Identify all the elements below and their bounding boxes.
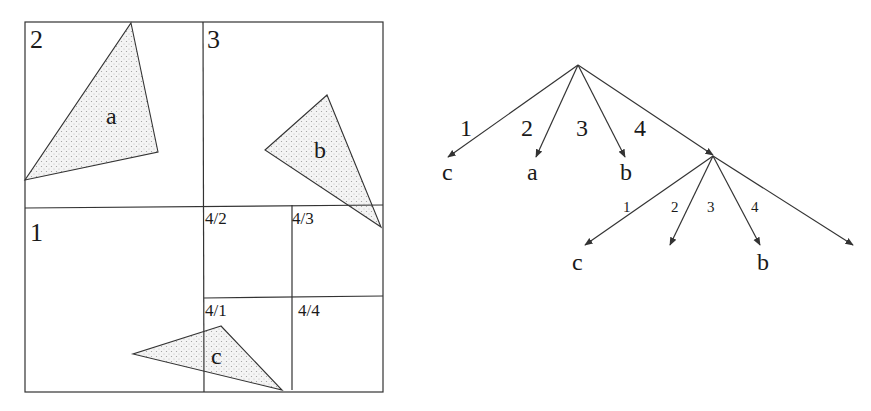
object-label-a: a xyxy=(106,103,117,129)
subquadrant-label-4-1: 4/1 xyxy=(205,301,227,320)
spatial-partition: abc 231 4/24/34/14/4 xyxy=(25,22,383,392)
subquadrant-label-4-3: 4/3 xyxy=(292,209,314,228)
subtree-edge-label-1: 1 xyxy=(623,199,631,215)
tree-edge-4 xyxy=(578,65,713,155)
subtree-edge-label-3: 3 xyxy=(707,199,715,215)
quad4-horizontal-divider xyxy=(204,296,383,298)
edge-label-4: 4 xyxy=(634,115,646,141)
tree-leaf-c: c xyxy=(442,159,453,185)
object-label-b: b xyxy=(314,137,326,163)
tree-edge-1 xyxy=(448,65,578,157)
tree-edge-2 xyxy=(536,65,578,157)
subtree-edge-4 xyxy=(713,156,853,245)
edge-label-1: 1 xyxy=(460,115,472,141)
object-label-c: c xyxy=(211,343,222,369)
subquadrant-label-4-2: 4/2 xyxy=(205,209,227,228)
edge-label-3: 3 xyxy=(576,115,588,141)
object-a xyxy=(25,23,158,180)
subquadrant-label-4-4: 4/4 xyxy=(298,301,320,320)
quadtree-diagram: abc 231 4/24/34/14/4 1c2a3b41c234b xyxy=(0,0,871,411)
subtree-leaf-c: c xyxy=(572,249,583,275)
subtree-edge-label-4: 4 xyxy=(751,199,759,215)
subtree-leaf-b: b xyxy=(757,249,769,275)
tree-edge-3 xyxy=(578,65,625,157)
subtree-edge-1 xyxy=(585,156,713,245)
quadrant-label-2: 2 xyxy=(30,25,43,54)
object-c xyxy=(133,326,282,390)
edge-label-2: 2 xyxy=(521,115,533,141)
subtree-edge-label-2: 2 xyxy=(671,199,679,215)
tree-leaf-a: a xyxy=(527,159,538,185)
tree-leaf-b: b xyxy=(620,159,632,185)
quadrant-label-3: 3 xyxy=(207,25,220,54)
quadrant-label-1: 1 xyxy=(30,218,43,247)
quadtree-tree: 1c2a3b41c234b xyxy=(442,65,853,275)
subquadrant-labels: 4/24/34/14/4 xyxy=(205,209,320,320)
